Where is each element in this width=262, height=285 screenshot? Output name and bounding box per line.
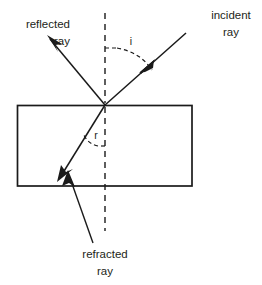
refracted-ray-label-line2: ray (97, 265, 113, 277)
reflected-ray-line (50, 39, 105, 105)
optics-diagram-canvas: i r reflected ray incident ray refracted… (0, 0, 262, 285)
angle-refraction-label: r (94, 129, 98, 141)
incident-ray-label-line2: ray (223, 26, 239, 38)
reflected-ray-label-line2: ray (54, 35, 70, 47)
refracted-ray-pointer-line (70, 178, 93, 243)
refracted-ray-line (61, 105, 105, 176)
reflected-ray-label-line1: reflected (26, 18, 70, 30)
optics-diagram: i r reflected ray incident ray refracted… (0, 0, 262, 285)
incident-ray-label-line1: incident (211, 9, 251, 21)
refracted-ray-label-line1: refracted (82, 248, 127, 260)
angle-incidence-label: i (130, 35, 132, 47)
incident-ray-arrowhead-fill (139, 60, 154, 73)
